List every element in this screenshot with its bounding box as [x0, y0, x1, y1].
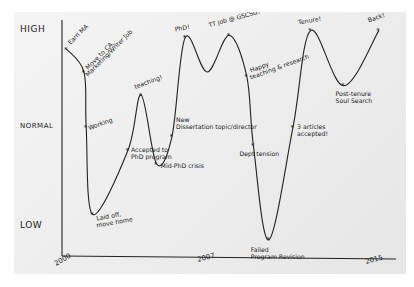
event-label: Failed	[251, 246, 269, 253]
event-marker: *	[139, 92, 143, 100]
event-label: Dissertation topic/director	[176, 123, 257, 131]
event-label: Dept tension	[239, 150, 279, 158]
event-marks: *Earn MA*Move to CA,Marketing/Writer Job…	[64, 12, 386, 261]
x-tick-2015: 2015	[364, 254, 383, 266]
event-label: accepted!	[297, 130, 328, 138]
event-label: Tenure!	[297, 15, 322, 26]
event-label: Program Revision	[251, 253, 305, 261]
event-label: Earn MA	[66, 22, 90, 46]
event-marker: *	[154, 161, 158, 169]
event-label: teaching!	[133, 73, 163, 91]
y-level-normal: NORMAL	[20, 122, 53, 130]
x-tick-2007: 2007	[196, 252, 215, 264]
paper-sheet: HIGH NORMAL LOW 2000 2007 2015 *Earn MA*…	[14, 12, 406, 274]
y-level-high: HIGH	[20, 24, 45, 34]
life-chart: HIGH NORMAL LOW 2000 2007 2015 *Earn MA*…	[14, 12, 406, 274]
life-line	[66, 30, 378, 240]
event-label: Post-tenure	[336, 90, 372, 97]
event-marker: *	[266, 236, 270, 244]
x-tick-labels: 2000 2007 2015	[53, 252, 384, 268]
event-marker: *	[227, 32, 231, 40]
event-marker: *	[291, 124, 295, 132]
event-label: Soul Search	[336, 97, 373, 104]
event-marker: *	[308, 27, 312, 35]
y-level-labels: HIGH NORMAL LOW	[20, 24, 53, 230]
event-label: TT job @ GSCSU!	[207, 12, 261, 29]
event-marker: *	[170, 133, 174, 141]
event-marker: *	[183, 34, 187, 42]
event-marker: *	[90, 211, 94, 219]
event-marker: *	[64, 46, 68, 54]
x-tick-2000: 2000	[53, 252, 72, 268]
event-label: Working	[87, 116, 114, 132]
event-label: PhD!	[174, 23, 190, 32]
event-label: New	[176, 116, 190, 123]
event-marker: *	[244, 73, 248, 81]
event-marker: *	[126, 147, 130, 155]
event-label: Marketing/Writer Job	[84, 28, 134, 78]
y-level-low: LOW	[20, 220, 42, 230]
x-axis	[62, 256, 396, 259]
event-label: Back!	[367, 12, 386, 24]
event-label: PhD program	[131, 153, 172, 161]
event-label: Mid-PhD crisis	[161, 162, 204, 169]
event-marker: *	[376, 27, 380, 35]
event-label: 3 articles	[297, 123, 326, 130]
